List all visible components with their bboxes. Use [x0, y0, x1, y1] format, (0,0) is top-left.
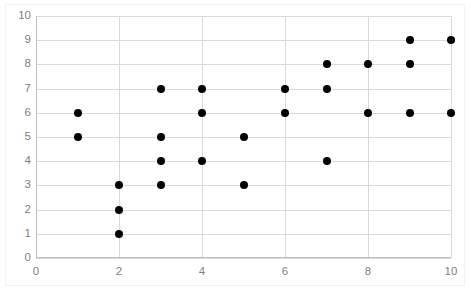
y-axis-tick-label: 0	[3, 252, 31, 264]
data-point[interactable]	[157, 157, 165, 165]
gridline-horizontal	[36, 234, 451, 235]
y-axis-tick-label: 8	[3, 59, 31, 71]
x-axis-tick-label: 10	[431, 266, 471, 278]
data-point[interactable]	[115, 181, 123, 189]
data-point[interactable]	[240, 181, 248, 189]
y-axis-tick-label: 1	[3, 228, 31, 240]
gridline-vertical	[119, 16, 120, 258]
x-axis-line	[36, 257, 451, 258]
data-point[interactable]	[157, 85, 165, 93]
y-axis-tick-label: 2	[3, 204, 31, 216]
data-point[interactable]	[74, 133, 82, 141]
data-point[interactable]	[240, 133, 248, 141]
data-point[interactable]	[115, 206, 123, 214]
data-point[interactable]	[406, 36, 414, 44]
y-axis-tick-label: 9	[3, 34, 31, 46]
gridline-vertical	[368, 16, 369, 258]
data-point[interactable]	[198, 85, 206, 93]
gridline-horizontal	[36, 40, 451, 41]
y-axis-tick-label: 4	[3, 155, 31, 167]
gridline-horizontal	[36, 113, 451, 114]
data-point[interactable]	[323, 60, 331, 68]
gridline-vertical	[202, 16, 203, 258]
y-axis-tick-label: 3	[3, 180, 31, 192]
data-point[interactable]	[323, 157, 331, 165]
x-axis-tick-label: 8	[348, 266, 388, 278]
x-axis-tick-label: 4	[182, 266, 222, 278]
gridline-vertical	[285, 16, 286, 258]
data-point[interactable]	[115, 230, 123, 238]
data-point[interactable]	[364, 109, 372, 117]
y-axis-tick-label: 6	[3, 107, 31, 119]
y-axis-tick-label: 5	[3, 131, 31, 143]
scatter-chart: 012345678910 0246810	[0, 0, 471, 291]
y-axis-line	[36, 16, 37, 258]
plot-area	[36, 16, 451, 258]
data-point[interactable]	[281, 85, 289, 93]
data-point[interactable]	[364, 60, 372, 68]
gridline-horizontal	[36, 89, 451, 90]
gridline-horizontal	[36, 161, 451, 162]
gridline-horizontal	[36, 210, 451, 211]
gridline-horizontal	[36, 258, 451, 259]
data-point[interactable]	[74, 109, 82, 117]
data-point[interactable]	[281, 109, 289, 117]
data-point[interactable]	[198, 157, 206, 165]
gridline-horizontal	[36, 16, 451, 17]
data-point[interactable]	[406, 109, 414, 117]
gridline-vertical	[451, 16, 452, 258]
x-axis-tick-label: 6	[265, 266, 305, 278]
x-axis-tick-label: 0	[16, 266, 56, 278]
data-point[interactable]	[198, 109, 206, 117]
gridline-horizontal	[36, 64, 451, 65]
x-axis-tick-labels: 0246810	[36, 266, 451, 284]
data-point[interactable]	[447, 109, 455, 117]
y-axis-tick-label: 10	[3, 10, 31, 22]
x-axis-tick-label: 2	[99, 266, 139, 278]
data-point[interactable]	[406, 60, 414, 68]
data-point[interactable]	[157, 181, 165, 189]
y-axis-tick-labels: 012345678910	[0, 16, 31, 258]
y-axis-tick-label: 7	[3, 83, 31, 95]
data-point[interactable]	[323, 85, 331, 93]
data-point[interactable]	[157, 133, 165, 141]
